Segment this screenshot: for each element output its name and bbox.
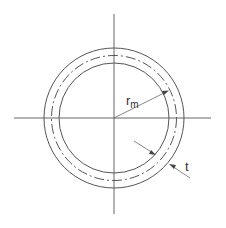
thin-wall-tube-cross-section: rm t [0, 0, 226, 228]
mean-radius-line [114, 92, 166, 118]
mean-radius-label: rm [126, 93, 139, 110]
thickness-label: t [185, 159, 189, 174]
mean-radius-arrowhead [162, 91, 169, 96]
thickness-arrow-inner-leader [134, 141, 153, 153]
